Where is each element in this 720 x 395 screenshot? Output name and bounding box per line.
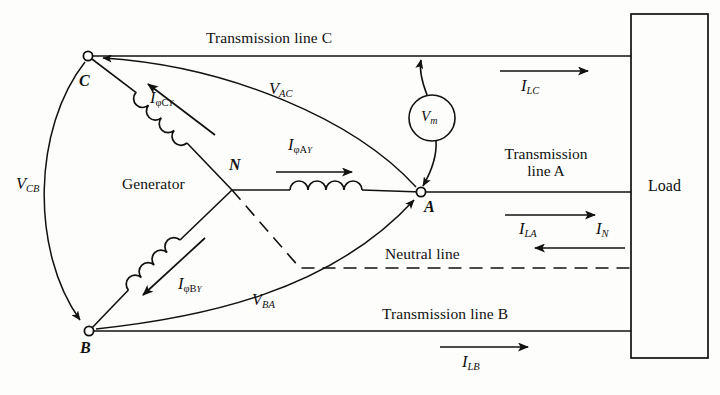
voltmeter-symbol: V [421, 108, 430, 124]
phase-current-a-subscript: φA [294, 144, 307, 155]
voltage-vcb-symbol: V [16, 174, 26, 193]
node-label-b: B [80, 340, 91, 356]
generator-label: Generator [122, 176, 185, 192]
transmission-line-a-label-line1: Transmission [492, 145, 600, 162]
node-label-n: N [229, 157, 241, 173]
phase-current-b-subscript: φB [184, 283, 197, 294]
voltmeter-label: Vm [421, 109, 437, 126]
phase-b-wire-upper [180, 190, 232, 240]
node-terminal-a[interactable] [416, 187, 425, 196]
voltage-label-vac: VAC [269, 81, 292, 99]
phase-current-c-label: IφCY [150, 90, 173, 108]
voltmeter-lead-to-node-a [423, 141, 436, 186]
line-current-lc-label: ILC [521, 78, 539, 96]
node-label-c: C [79, 73, 90, 89]
transmission-line-a-label: Transmission line A [492, 145, 600, 180]
voltage-vba-symbol: V [252, 290, 262, 309]
phase-a-coil-icon [290, 181, 362, 190]
transmission-line-a-label-line2: line A [492, 162, 600, 179]
phase-a-wire-right [362, 190, 421, 192]
phase-b-coil-icon [126, 238, 180, 290]
phase-current-a-mark: Y [307, 145, 312, 155]
line-current-lc-subscript: LC [527, 85, 540, 96]
voltage-vcb-subscript: CB [26, 183, 39, 194]
line-current-n-label: IN [596, 221, 608, 239]
phase-c-wire-upper [88, 56, 137, 93]
line-current-lb-label: ILB [462, 354, 480, 372]
voltage-vac-symbol: V [269, 79, 279, 98]
phase-b-wire-lower [89, 290, 128, 331]
line-current-lb-subscript: LB [468, 361, 480, 372]
node-terminal-c[interactable] [83, 51, 92, 60]
phase-c-wire-lower [187, 143, 232, 190]
phase-current-c-mark: Y [168, 98, 173, 108]
voltmeter-subscript: m [430, 115, 437, 126]
voltage-label-vcb: VCB [16, 176, 39, 194]
voltage-arc-vcb [44, 62, 85, 320]
transmission-line-c-label: Transmission line C [206, 30, 332, 46]
neutral-line-label: Neutral line [385, 246, 460, 262]
phase-current-b-mark: Y [196, 284, 201, 294]
voltmeter-lead-to-line-c [420, 60, 427, 95]
voltage-vba-subscript: BA [262, 299, 275, 310]
phase-current-c-subscript: φC [156, 97, 169, 108]
phase-current-b-label: IφBY [178, 276, 201, 294]
voltage-vac-subscript: AC [279, 88, 292, 99]
circuit-schematic-svg [0, 0, 720, 395]
line-current-la-label: ILA [519, 221, 537, 239]
load-label: Load [648, 178, 681, 194]
phase-current-a-label: IφAY [288, 137, 312, 155]
line-current-n-subscript: N [602, 228, 609, 239]
node-label-a: A [424, 199, 435, 215]
voltage-label-vba: VBA [252, 292, 275, 310]
figure-canvas: Transmission line C Transmission line A … [0, 0, 720, 395]
voltage-arc-vac [103, 58, 416, 187]
line-current-la-subscript: LA [525, 228, 537, 239]
transmission-line-b-label: Transmission line B [382, 306, 508, 322]
node-terminal-b[interactable] [84, 326, 93, 335]
